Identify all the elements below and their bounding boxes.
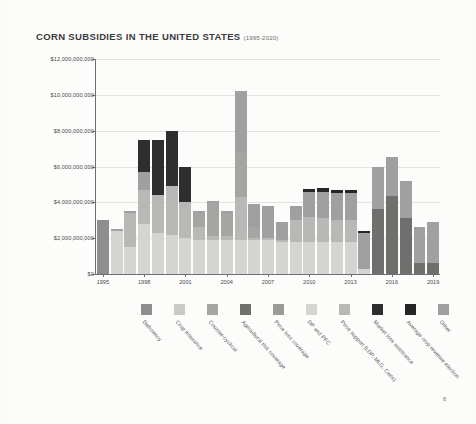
bar-segment — [290, 242, 302, 274]
chart-legend: DeficiencyCrop insuranceCounter-cyclical… — [96, 304, 440, 394]
x-tick-mark — [268, 274, 269, 277]
bar-segment — [331, 220, 343, 242]
legend-item[interactable]: Price support (LDP, MLG, Certs) — [339, 304, 350, 315]
bar-segment — [166, 235, 178, 274]
bar-segment — [303, 192, 315, 217]
chart-plot-area: $0$2,000,000,000$4,000,000,000$6,000,000… — [96, 59, 440, 274]
bar-segment — [235, 91, 247, 152]
bar-segment — [207, 202, 219, 236]
bar-segment — [345, 242, 357, 274]
legend-item[interactable]: Other — [438, 304, 449, 315]
x-tick-label: 2004 — [220, 279, 232, 285]
bar-column — [345, 59, 357, 274]
bar-segment — [179, 238, 191, 274]
y-tick-label: $2,000,000,000 — [54, 235, 94, 241]
legend-label: Counter-cyclical — [208, 319, 239, 353]
page-title: CORN SUBSIDIES IN THE UNITED STATES — [36, 31, 241, 42]
legend-swatch — [141, 304, 152, 315]
bar-column — [276, 59, 288, 274]
bar-segment — [152, 195, 164, 233]
x-tick-mark — [309, 274, 310, 277]
x-tick-label: 2013 — [344, 279, 356, 285]
paper-sheet: CORN SUBSIDIES IN THE UNITED STATES(1995… — [8, 4, 468, 420]
x-tick-label: 2001 — [179, 279, 191, 285]
legend-swatch — [207, 304, 218, 315]
bar-segment — [235, 240, 247, 274]
bar-segment — [124, 247, 136, 274]
legend-item[interactable]: Counter-cyclical — [207, 304, 218, 315]
legend-item[interactable]: Market loss assistance — [372, 304, 383, 315]
bar-column — [427, 59, 439, 274]
legend-label: DP and PFC — [307, 319, 332, 346]
bar-segment — [386, 196, 398, 274]
y-tick-label: $10,000,000,000 — [51, 92, 95, 98]
legend-swatch — [438, 304, 449, 315]
bar-column — [166, 59, 178, 274]
bar-column — [179, 59, 191, 274]
bar-segment — [221, 213, 233, 236]
x-tick-mark — [144, 274, 145, 277]
bar-segment — [207, 240, 219, 274]
bar-segment — [427, 263, 439, 274]
bar-segment — [138, 140, 150, 172]
bar-segment — [303, 242, 315, 274]
bar-segment — [193, 240, 205, 274]
bar-segment — [317, 218, 329, 241]
bar-segment — [262, 206, 274, 238]
x-tick-label: 1995 — [97, 279, 109, 285]
bar-segment — [358, 233, 370, 269]
bar-segment — [400, 181, 412, 219]
legend-item[interactable]: Deficiency — [141, 304, 152, 315]
bar-column — [138, 59, 150, 274]
legend-item[interactable]: Average crop revenue election — [405, 304, 416, 315]
legend-item[interactable]: Price loss coverage — [273, 304, 284, 315]
legend-label: Deficiency — [142, 319, 164, 342]
bar-segment — [331, 193, 343, 220]
bar-segment — [248, 204, 260, 227]
bar-segment — [427, 222, 439, 263]
bar-segment — [179, 202, 191, 238]
x-tick-label: 1998 — [138, 279, 150, 285]
bar-column — [97, 59, 109, 274]
bar-segment — [138, 190, 150, 224]
legend-label: Crop insurance — [175, 319, 205, 351]
bar-column — [111, 59, 123, 274]
bar-segment — [303, 217, 315, 242]
legend-item[interactable]: Agricultural risk coverage — [240, 304, 251, 315]
bar-segment — [138, 224, 150, 274]
legend-label: Price support (LDP, MLG, Certs) — [340, 319, 398, 383]
legend-item[interactable]: DP and PFC — [306, 304, 317, 315]
bar-segment — [124, 213, 136, 247]
bar-segment — [358, 269, 370, 274]
legend-label: Other — [439, 319, 453, 333]
title-block: CORN SUBSIDIES IN THE UNITED STATES(1995… — [36, 26, 278, 44]
y-tick-label: $4,000,000,000 — [54, 199, 94, 205]
bar-column — [152, 59, 164, 274]
x-tick-mark — [392, 274, 393, 277]
bar-segment — [248, 227, 260, 238]
document-page: CORN SUBSIDIES IN THE UNITED STATES(1995… — [0, 0, 476, 424]
x-tick-label: 2019 — [427, 279, 439, 285]
y-tick-label: $6,000,000,000 — [54, 164, 94, 170]
bar-segment — [372, 167, 384, 208]
bar-column — [414, 59, 426, 274]
bar-segment — [248, 240, 260, 274]
legend-swatch — [240, 304, 251, 315]
bar-segment — [193, 213, 205, 227]
bar-segment — [331, 242, 343, 274]
page-number: 8 — [443, 396, 446, 402]
x-tick-mark — [185, 274, 186, 277]
bar-segment — [317, 242, 329, 274]
legend-label: Price loss coverage — [274, 319, 311, 359]
x-tick-mark — [433, 274, 434, 277]
bar-segment — [414, 227, 426, 263]
bar-segment — [400, 218, 412, 274]
bar-segment — [138, 172, 150, 190]
legend-swatch — [273, 304, 284, 315]
legend-item[interactable]: Crop insurance — [174, 304, 185, 315]
x-tick-mark — [351, 274, 352, 277]
legend-label: Average crop revenue election — [406, 319, 461, 379]
legend-swatch — [306, 304, 317, 315]
x-tick-label: 2007 — [262, 279, 274, 285]
bar-column — [290, 59, 302, 274]
